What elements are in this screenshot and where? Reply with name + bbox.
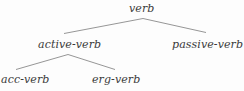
edge-active-verb-to-erg-verb bbox=[68, 55, 115, 70]
tree-node-acc-verb: acc-verb bbox=[1, 74, 49, 86]
syntax-tree-diagram: verb active-verb passive-verb acc-verb e… bbox=[0, 0, 244, 91]
tree-node-verb: verb bbox=[129, 3, 154, 15]
edge-verb-to-active-verb bbox=[64, 19, 143, 34]
edge-active-verb-to-acc-verb bbox=[16, 55, 68, 70]
tree-node-passive-verb: passive-verb bbox=[172, 39, 243, 51]
edge-verb-to-passive-verb bbox=[143, 19, 206, 33]
tree-node-erg-verb: erg-verb bbox=[92, 74, 140, 86]
tree-node-active-verb: active-verb bbox=[38, 39, 101, 51]
